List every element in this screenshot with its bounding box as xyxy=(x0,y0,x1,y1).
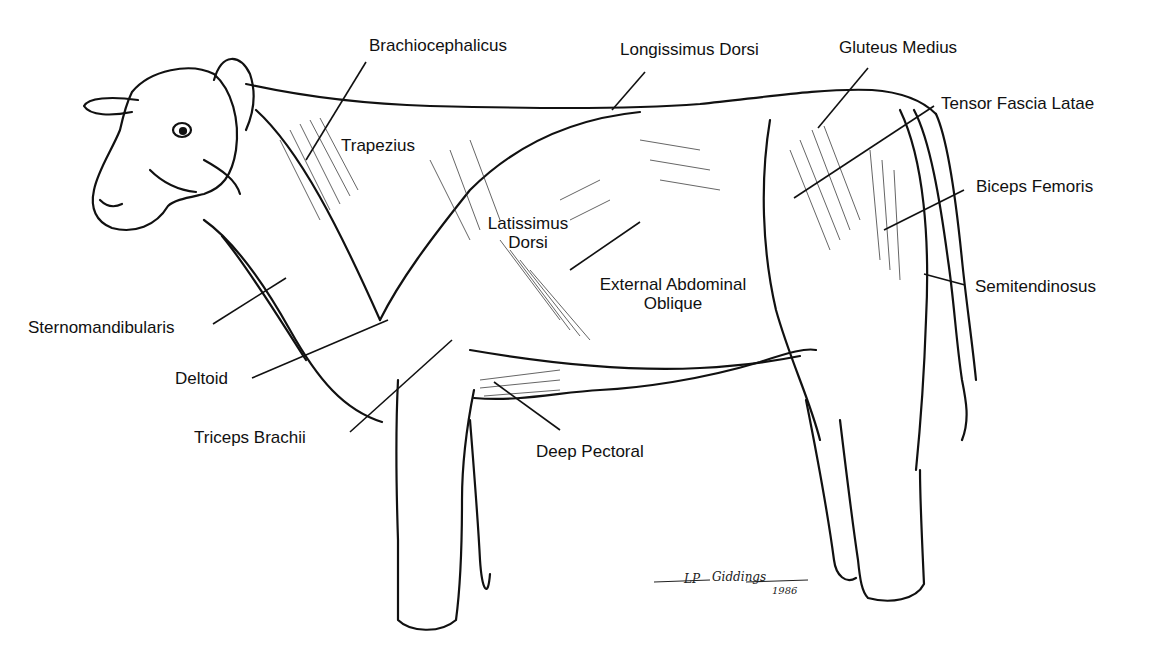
leader-tensor xyxy=(794,106,934,198)
label-deep-pectoral: Deep Pectoral xyxy=(536,442,644,461)
artist-signature: Giddings xyxy=(712,570,766,584)
foreleg-near xyxy=(397,380,475,630)
label-latissimus-dorsi: Latissimus Dorsi xyxy=(486,214,570,252)
foreleg-far xyxy=(470,420,490,589)
label-semitendinosus: Semitendinosus xyxy=(975,277,1096,296)
label-sternomandibularis: Sternomandibularis xyxy=(28,318,174,337)
leader-gluteus xyxy=(818,68,868,128)
label-brachiocephalicus: Brachiocephalicus xyxy=(369,36,507,55)
label-latissimus-line2: Dorsi xyxy=(486,233,570,252)
label-trapezius: Trapezius xyxy=(341,136,415,155)
label-tensor-fascia-latae: Tensor Fascia Latae xyxy=(941,94,1094,113)
signature-year: 1986 xyxy=(772,585,797,596)
label-deltoid: Deltoid xyxy=(175,369,228,388)
leader-semitendinosus xyxy=(924,274,965,285)
leader-deltoid xyxy=(252,320,388,378)
label-eao-line1: External Abdominal xyxy=(582,275,764,294)
leader-latissimus xyxy=(570,222,640,270)
label-external-abdominal-oblique: External Abdominal Oblique xyxy=(582,275,764,313)
label-eao-line2: Oblique xyxy=(582,294,764,313)
artist-initials: LP xyxy=(684,572,700,586)
label-biceps-femoris: Biceps Femoris xyxy=(976,177,1093,196)
label-longissimus-dorsi: Longissimus Dorsi xyxy=(620,40,759,59)
label-latissimus-line1: Latissimus xyxy=(486,214,570,233)
label-gluteus-medius: Gluteus Medius xyxy=(839,38,957,57)
neck-underline xyxy=(204,220,382,422)
leader-triceps xyxy=(350,340,452,432)
label-triceps-brachii: Triceps Brachii xyxy=(194,428,306,447)
leader-longissimus xyxy=(612,72,645,110)
ear-left xyxy=(84,98,138,114)
ear-right xyxy=(214,59,253,130)
leader-sternomandibularis xyxy=(213,278,286,324)
leader-deep-pectoral xyxy=(494,382,560,430)
hindleg-near xyxy=(840,420,924,601)
